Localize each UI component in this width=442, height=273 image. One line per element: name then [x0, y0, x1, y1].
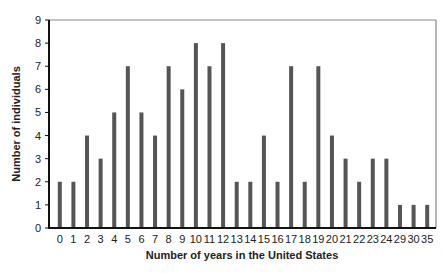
y-tick-label: 7: [35, 60, 41, 72]
bar-35: [425, 205, 429, 228]
y-axis-title: Number of individuals: [10, 66, 22, 182]
bar-18: [303, 182, 307, 228]
y-tick-label: 8: [35, 37, 41, 49]
bar-23: [371, 159, 375, 228]
x-tick-label: 20: [326, 233, 338, 245]
plot-frame: [49, 20, 436, 228]
bar-4: [112, 112, 116, 228]
bar-13: [235, 182, 239, 228]
y-axis: 0123456789: [35, 14, 49, 234]
bar-9: [180, 89, 184, 228]
bar-17: [289, 66, 293, 228]
bar-2: [85, 136, 89, 228]
bar-24: [384, 159, 388, 228]
x-tick-label: 22: [353, 233, 365, 245]
bar-19: [316, 66, 320, 228]
y-tick-label: 0: [35, 222, 41, 234]
x-tick-label: 29: [394, 233, 406, 245]
x-tick-label: 1: [70, 233, 76, 245]
bar-16: [276, 182, 280, 228]
x-tick-label: 15: [258, 233, 270, 245]
x-tick-label: 35: [421, 233, 433, 245]
bar-6: [139, 112, 143, 228]
x-tick-label: 21: [339, 233, 351, 245]
x-tick-label: 30: [407, 233, 419, 245]
bar-0: [58, 182, 62, 228]
bar-30: [412, 205, 416, 228]
x-tick-label: 5: [125, 233, 131, 245]
bar-10: [194, 43, 198, 228]
bar-22: [357, 182, 361, 228]
bars: [58, 43, 429, 228]
bar-12: [221, 43, 225, 228]
x-axis: 0123456789101112131415161718192021222324…: [48, 228, 436, 245]
x-tick-label: 11: [204, 233, 215, 245]
x-tick-label: 13: [231, 233, 243, 245]
x-tick-label: 16: [271, 233, 283, 245]
x-tick-label: 10: [190, 233, 202, 245]
bar-1: [71, 182, 75, 228]
x-tick-label: 7: [152, 233, 158, 245]
bar-14: [248, 182, 252, 228]
x-tick-label: 17: [285, 233, 297, 245]
x-tick-label: 23: [367, 233, 379, 245]
x-tick-label: 6: [138, 233, 144, 245]
x-tick-label: 12: [217, 233, 229, 245]
x-tick-label: 19: [312, 233, 324, 245]
x-tick-label: 0: [57, 233, 63, 245]
bar-8: [167, 66, 171, 228]
y-tick-label: 5: [35, 106, 41, 118]
x-tick-label: 14: [244, 233, 256, 245]
x-tick-label: 24: [380, 233, 392, 245]
y-tick-label: 3: [35, 153, 41, 165]
bar-20: [330, 136, 334, 228]
bar-21: [344, 159, 348, 228]
y-tick-label: 4: [35, 130, 41, 142]
bar-3: [99, 159, 103, 228]
bar-chart: 0123456789 01234567891011121314151617181…: [0, 0, 442, 273]
x-tick-label: 18: [299, 233, 311, 245]
y-tick-label: 9: [35, 14, 41, 26]
y-tick-label: 6: [35, 83, 41, 95]
x-tick-label: 3: [98, 233, 104, 245]
bar-11: [207, 66, 211, 228]
bar-7: [153, 136, 157, 228]
x-axis-title: Number of years in the United States: [146, 249, 339, 261]
x-tick-label: 8: [166, 233, 172, 245]
x-tick-label: 4: [111, 233, 117, 245]
bar-15: [262, 136, 266, 228]
y-tick-label: 1: [35, 199, 41, 211]
x-tick-label: 9: [179, 233, 185, 245]
y-tick-label: 2: [35, 176, 41, 188]
bar-29: [398, 205, 402, 228]
bar-5: [126, 66, 130, 228]
x-tick-label: 2: [84, 233, 90, 245]
